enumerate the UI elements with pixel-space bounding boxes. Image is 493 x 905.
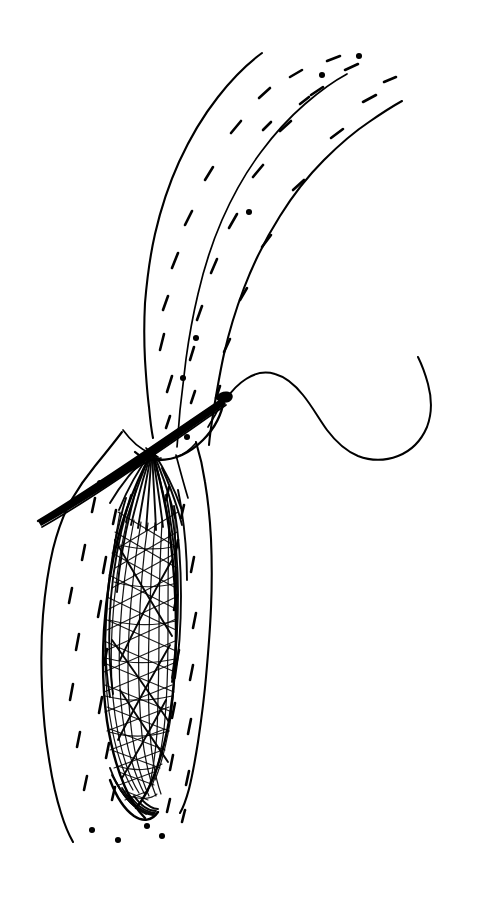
surgical-illustration: [0, 0, 493, 905]
illustration-root: Surgical anastomosis line drawing Pen-an…: [0, 0, 493, 905]
canvas-background: [0, 0, 493, 905]
